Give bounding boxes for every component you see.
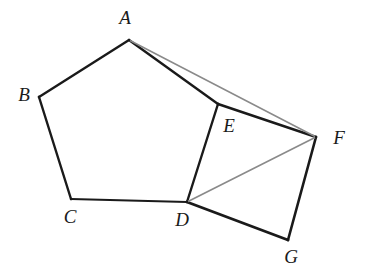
vertex-label-g: G — [284, 247, 298, 266]
edge-c-d — [71, 199, 187, 202]
edge-d-e — [187, 104, 218, 202]
vertex-point-e — [217, 103, 219, 105]
figure-canvas — [0, 0, 370, 280]
edge-f-g — [288, 137, 316, 240]
vertex-label-a: A — [119, 8, 131, 27]
edge-d-f — [187, 137, 316, 202]
vertex-point-b — [38, 96, 40, 98]
edge-g-d — [187, 202, 288, 240]
edge-a-b — [39, 40, 129, 97]
vertex-label-d: D — [175, 210, 189, 229]
vertex-label-c: C — [64, 207, 77, 226]
geometry-figure: ABCDEFG — [0, 0, 370, 280]
edge-e-a — [129, 40, 218, 104]
vertex-point-f — [315, 136, 317, 138]
vertex-label-f: F — [333, 128, 345, 147]
vertex-point-g — [287, 239, 289, 241]
vertex-label-b: B — [18, 85, 30, 104]
vertex-point-d — [186, 201, 188, 203]
edge-b-c — [39, 97, 71, 199]
vertex-point-a — [128, 39, 130, 41]
vertex-label-e: E — [223, 116, 235, 135]
vertex-point-c — [70, 198, 72, 200]
